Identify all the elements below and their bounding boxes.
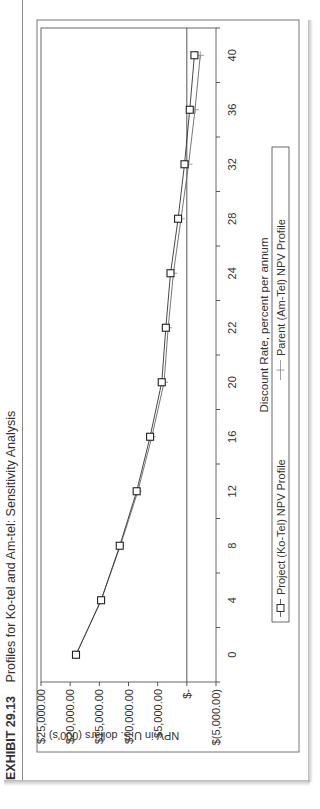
- square-marker-icon: [98, 597, 105, 604]
- square-marker-icon: [73, 651, 80, 658]
- page-shadow: [308, 20, 313, 782]
- square-marker-icon: [116, 542, 123, 549]
- chart-legend: Project (Ko-Tel) NPV Profile Parent (Am-…: [272, 147, 289, 622]
- legend-project-label: Project (Ko-Tel) NPV Profile: [275, 459, 287, 595]
- exhibit-page: EXHIBIT 29.13 Profiles for Ko-tel and Am…: [0, 0, 320, 809]
- rotated-exhibit: EXHIBIT 29.13 Profiles for Ko-tel and Am…: [0, 0, 308, 780]
- page-shadow: [4, 780, 310, 786]
- square-marker-icon: [158, 379, 165, 386]
- square-marker-icon: [167, 270, 174, 277]
- legend-parent-label: Parent (Am-Tel) NPV Profile: [275, 219, 287, 356]
- square-marker-icon: [175, 215, 182, 222]
- y-tick-label: $(5,000.00): [210, 689, 222, 745]
- x-tick-label: 16: [226, 431, 238, 443]
- x-tick-label: 28: [226, 213, 238, 225]
- plot-area: $25,000.00$20,000.00$15,000.00$10,000.00…: [35, 28, 238, 745]
- square-marker-icon: [186, 106, 193, 113]
- project-npv-line: [76, 55, 194, 655]
- square-marker-icon: [277, 605, 284, 612]
- x-tick-label: 32: [226, 158, 238, 170]
- x-tick-label: 22: [226, 322, 238, 334]
- y-axis-label: NPV in U.S. dollars (000's): [49, 730, 179, 742]
- x-tick-label: 20: [226, 376, 238, 388]
- x-tick-label: 24: [226, 267, 238, 279]
- parent-npv-line: [76, 55, 200, 655]
- x-tick-label: 40: [226, 49, 238, 61]
- x-tick-label: 36: [226, 104, 238, 116]
- square-marker-icon: [181, 161, 188, 168]
- x-tick-label: 4: [226, 597, 238, 603]
- square-marker-icon: [147, 433, 154, 440]
- y-tick-label: $25,000.00: [35, 689, 47, 744]
- x-tick-label: 0: [226, 652, 238, 658]
- x-axis-label: Discount Rate, percent per annum: [258, 237, 270, 412]
- y-tick-label: $-: [181, 689, 193, 699]
- x-tick-label: 12: [226, 485, 238, 497]
- npv-profile-chart: $25,000.00$20,000.00$15,000.00$10,000.00…: [0, 0, 308, 780]
- square-marker-icon: [162, 324, 169, 331]
- x-tick-label: 8: [226, 543, 238, 549]
- square-marker-icon: [191, 52, 198, 59]
- square-marker-icon: [133, 488, 140, 495]
